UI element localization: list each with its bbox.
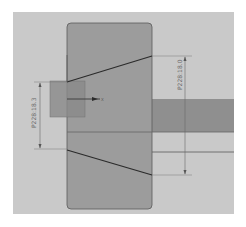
dimension-label-right[interactable]: P228:18.0 [176,59,183,90]
x-axis-label: X [101,97,104,102]
dimension-label-left[interactable]: P228:18.3 [30,97,37,128]
cad-viewport[interactable]: X P228:18.3 P228:18.0 [0,0,246,227]
shaft-body[interactable] [152,99,234,132]
